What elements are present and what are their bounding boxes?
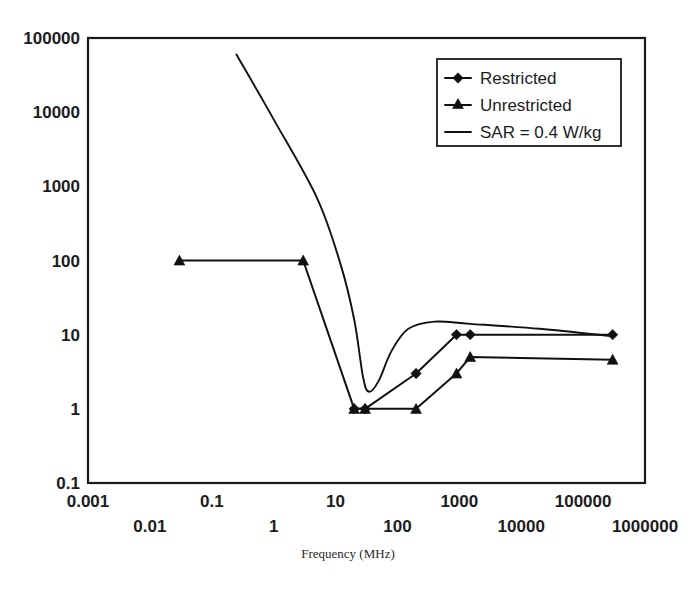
x-tick-label-row1: 10 [326, 492, 345, 511]
y-tick-label: 1 [71, 400, 80, 419]
chart-figure: 1000001000010001001010.1 0.0010.11010001… [0, 0, 698, 590]
y-tick-label: 100 [52, 252, 80, 271]
x-axis-tick-labels-row2: 0.011100100001000000 [133, 517, 678, 536]
diamond-marker [465, 329, 475, 339]
x-axis-title: Frequency (MHz) [301, 546, 395, 561]
y-tick-label: 10 [61, 326, 80, 345]
diamond-marker [607, 329, 617, 339]
x-axis-tick-labels-row1: 0.0010.1101000100000 [67, 492, 612, 511]
chart-canvas: 1000001000010001001010.1 0.0010.11010001… [0, 0, 698, 590]
x-tick-label-row1: 0.001 [67, 492, 110, 511]
x-tick-label-row2: 10000 [498, 517, 545, 536]
legend-entry-label: Restricted [480, 69, 557, 88]
x-tick-label-row1: 1000 [440, 492, 478, 511]
series-polyline [354, 335, 612, 409]
legend-entry-label: SAR = 0.4 W/kg [480, 123, 601, 142]
y-tick-label: 1000 [42, 177, 80, 196]
y-tick-label: 0.1 [56, 474, 80, 493]
y-axis-tick-labels: 1000001000010001001010.1 [23, 29, 80, 493]
x-tick-label-row2: 1000000 [612, 517, 678, 536]
x-tick-label-row1: 0.1 [200, 492, 224, 511]
series-restricted [349, 329, 618, 414]
y-tick-label: 10000 [33, 103, 80, 122]
legend-entry-label: Unrestricted [480, 96, 572, 115]
x-tick-label-row2: 100 [383, 517, 411, 536]
x-tick-label-row1: 100000 [555, 492, 612, 511]
x-tick-label-row2: 0.01 [133, 517, 166, 536]
x-tick-label-row2: 1 [269, 517, 278, 536]
y-tick-label: 100000 [23, 29, 80, 48]
chart-legend: RestrictedUnrestrictedSAR = 0.4 W/kg [437, 59, 621, 146]
